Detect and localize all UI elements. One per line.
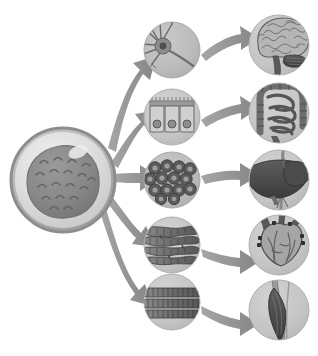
- skeletal-muscle-cell: [144, 274, 202, 330]
- intestines-organ: [249, 83, 309, 148]
- epithelial-cell: [144, 89, 200, 145]
- epithelial-nuclei: [153, 120, 191, 128]
- stem-cell-nucleus: [27, 146, 99, 219]
- diagram-canvas: [0, 0, 318, 356]
- neuron-nucleus: [160, 43, 167, 50]
- skeletal-muscle-organ: [249, 280, 309, 342]
- stem-cell: [11, 128, 115, 232]
- heart-organ: [249, 206, 309, 275]
- differentiation-diagram: [0, 0, 318, 356]
- epithelial-brush-border: [150, 101, 194, 106]
- brain-organ: [249, 15, 309, 75]
- cardiac-muscle-cell: [144, 217, 202, 273]
- hepatocyte-cell: [144, 152, 200, 208]
- liver-organ: [247, 150, 312, 210]
- skeletal-fiber-group: [144, 288, 202, 318]
